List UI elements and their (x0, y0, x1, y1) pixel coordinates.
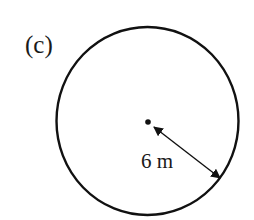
radius-label: 6 m (141, 149, 173, 173)
circle-diagram: (c) 6 m (0, 0, 254, 220)
figure-label: (c) (25, 31, 53, 59)
center-point (145, 119, 151, 125)
